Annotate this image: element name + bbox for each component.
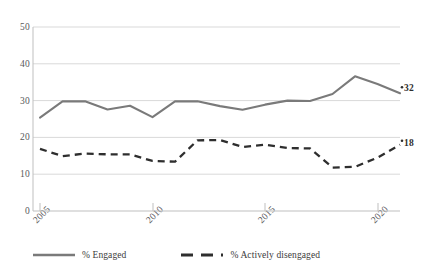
legend-key-dashed-line-icon: [181, 251, 223, 259]
disengaged-end-point: [401, 139, 404, 142]
legend-key-solid-line-icon: [33, 251, 75, 259]
axis-lines: [33, 27, 400, 211]
chart-container: 50 40 30 20 10 0 2005 2010 2015 2020 32 …: [0, 0, 434, 276]
legend-item-actively-disengaged[interactable]: % Actively disengaged: [181, 250, 320, 260]
gridlines: [33, 27, 400, 174]
legend-item-engaged[interactable]: % Engaged: [33, 250, 126, 260]
x-axis-ticks: [40, 203, 378, 211]
engaged-end-point: [401, 86, 404, 89]
legend-label-engaged: % Engaged: [82, 250, 126, 260]
chart-legend: % Engaged % Actively disengaged: [33, 250, 320, 260]
plot-area: [0, 0, 434, 276]
series-line-engaged: [40, 76, 400, 117]
legend-label-actively-disengaged: % Actively disengaged: [230, 250, 320, 260]
series-line-actively-disengaged: [40, 140, 400, 168]
